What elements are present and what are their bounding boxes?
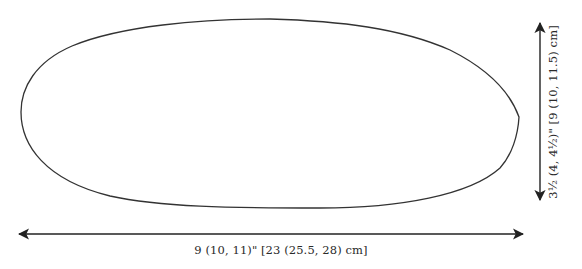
width-dimension-label: 9 (10, 11)" [23 (25.5, 28) cm] — [0, 243, 582, 257]
height-dimension-label: 3½ (4, 4½)" [9 (10, 11.5) cm] — [546, 25, 560, 199]
sole-outline-shape — [21, 19, 519, 208]
sole-schematic-diagram — [0, 0, 582, 269]
width-dimension-text: 9 (10, 11)" [23 (25.5, 28) cm] — [194, 243, 367, 257]
